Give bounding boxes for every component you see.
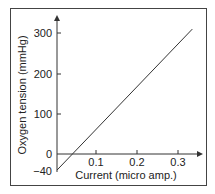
y-tick: 300 <box>34 27 52 39</box>
y-tick: −40 <box>33 165 52 177</box>
x-axis-label: Current (micro amp.) <box>75 169 176 181</box>
y-axis-label: Oxygen tension (mmHg) <box>16 35 28 154</box>
x-tick: 0.1 <box>88 156 103 168</box>
x-tick: 0.3 <box>170 156 185 168</box>
chart: 300 200 100 0 −40 0.1 0.2 0.3 Current (m… <box>0 0 215 194</box>
series-line <box>57 29 192 170</box>
y-tick: 100 <box>34 108 52 120</box>
y-tick: 0 <box>46 148 52 160</box>
x-tick: 0.2 <box>129 156 144 168</box>
y-tick: 200 <box>34 68 52 80</box>
